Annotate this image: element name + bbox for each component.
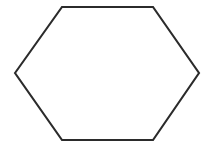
hexagon-outline [15, 7, 199, 140]
hexagon-sector-diagram [0, 0, 211, 148]
figure-canvas [0, 0, 211, 148]
